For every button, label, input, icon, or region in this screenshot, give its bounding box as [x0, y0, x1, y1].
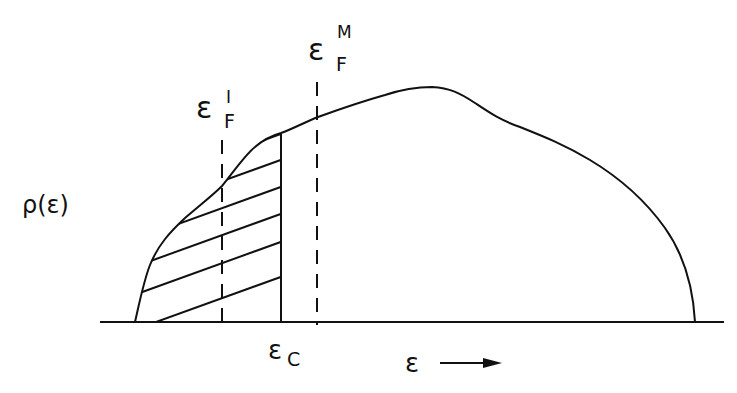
mobility-edge-label: ε C — [268, 335, 300, 370]
density-of-states-diagram: ρ(ε) ε I F ε M F ε C ε — [0, 0, 737, 393]
svg-text:I: I — [226, 87, 231, 107]
y-axis-label: ρ(ε) — [22, 191, 69, 219]
x-axis-arrow-icon — [440, 358, 502, 368]
svg-text:ε: ε — [268, 335, 282, 365]
svg-text:ε: ε — [196, 90, 212, 125]
svg-text:F: F — [336, 53, 347, 75]
svg-text:M: M — [337, 22, 352, 42]
fermi-level-insulator-label: ε I F — [196, 87, 235, 132]
fermi-level-metal-label: ε M F — [308, 22, 352, 75]
svg-text:ε: ε — [308, 32, 324, 67]
dos-curve — [135, 87, 695, 322]
svg-text:F: F — [224, 110, 235, 132]
x-axis-label: ε — [405, 348, 419, 378]
svg-text:C: C — [287, 348, 300, 370]
